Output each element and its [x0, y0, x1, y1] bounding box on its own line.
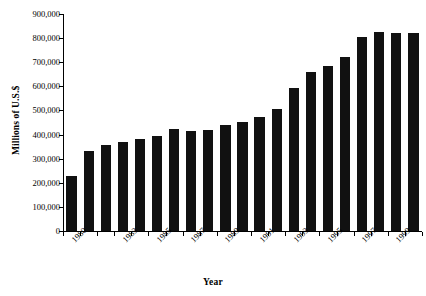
bar — [306, 72, 316, 231]
y-axis-tick-mark — [59, 207, 64, 208]
bar — [135, 139, 145, 231]
y-axis-tick-mark — [59, 159, 64, 160]
bar — [272, 109, 282, 231]
bar — [374, 32, 384, 231]
bar — [203, 130, 213, 231]
x-axis-tick-mark — [388, 232, 389, 236]
bar — [391, 33, 401, 231]
bar — [340, 57, 350, 231]
y-axis-tick-mark — [59, 62, 64, 63]
bar-chart: Millions of U.S.$ 900,000800,000700,0006… — [0, 0, 426, 296]
y-axis-tick-mark — [59, 14, 64, 15]
bar — [186, 131, 196, 231]
x-axis-title: Year — [0, 277, 426, 287]
x-axis-tick-mark — [285, 232, 286, 236]
x-axis-tick-mark — [114, 232, 115, 236]
bar — [169, 129, 179, 231]
bars-layer — [0, 0, 426, 296]
x-axis-tick-mark — [183, 232, 184, 236]
bar — [152, 136, 162, 231]
bar — [220, 125, 230, 231]
y-axis-tick-mark — [59, 38, 64, 39]
bar — [118, 142, 128, 231]
x-axis-tick-mark — [319, 232, 320, 236]
bar — [101, 145, 111, 231]
x-axis-tick-mark — [63, 232, 64, 236]
bar — [357, 37, 367, 231]
x-axis-tick-mark — [97, 232, 98, 236]
x-axis-tick-mark — [217, 232, 218, 236]
bar — [66, 176, 76, 231]
bar — [237, 122, 247, 231]
x-axis-tick-mark — [422, 232, 423, 236]
bar — [323, 66, 333, 231]
y-axis-tick-mark — [59, 135, 64, 136]
y-axis-tick-mark — [59, 110, 64, 111]
x-axis-tick-mark — [251, 232, 252, 236]
y-axis-tick-mark — [59, 183, 64, 184]
x-axis-tick-mark — [148, 232, 149, 236]
y-axis-tick-mark — [59, 86, 64, 87]
bar — [84, 151, 94, 231]
bar — [254, 117, 264, 231]
x-axis-tick-mark — [354, 232, 355, 236]
bar — [289, 88, 299, 231]
bar — [408, 33, 418, 231]
